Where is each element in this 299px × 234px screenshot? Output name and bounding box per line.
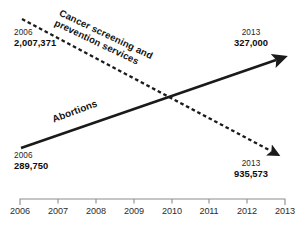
x-axis-label-2011: 2011 <box>192 206 226 216</box>
endpoint-value: 289,750 <box>14 161 48 171</box>
endpoint-value: 327,000 <box>216 38 286 48</box>
x-axis-label-2012: 2012 <box>230 206 264 216</box>
endpoint-value: 935,573 <box>216 169 286 179</box>
endpoint-label-cancer-start: 2006 2,007,371 <box>14 29 56 48</box>
x-axis <box>20 199 285 205</box>
endpoint-value: 2,007,371 <box>14 38 56 48</box>
x-axis-label-2009: 2009 <box>117 206 151 216</box>
x-axis-labels: 2006 2007 2008 2009 2010 2011 2012 2013 <box>0 206 299 222</box>
x-axis-label-2013: 2013 <box>268 206 299 216</box>
x-axis-label-2010: 2010 <box>155 206 189 216</box>
x-axis-label-2007: 2007 <box>41 206 75 216</box>
x-axis-label-2008: 2008 <box>79 206 113 216</box>
series-line-abortions <box>21 60 276 148</box>
endpoint-label-abortions-start: 2006 289,750 <box>14 152 48 171</box>
endpoint-label-abortions-end: 2013 327,000 <box>216 29 286 48</box>
endpoint-label-cancer-end: 2013 935,573 <box>216 160 286 179</box>
chart-container: 2006 2,007,371 2013 327,000 2006 289,750… <box>0 0 299 234</box>
x-axis-label-2006: 2006 <box>3 206 37 216</box>
